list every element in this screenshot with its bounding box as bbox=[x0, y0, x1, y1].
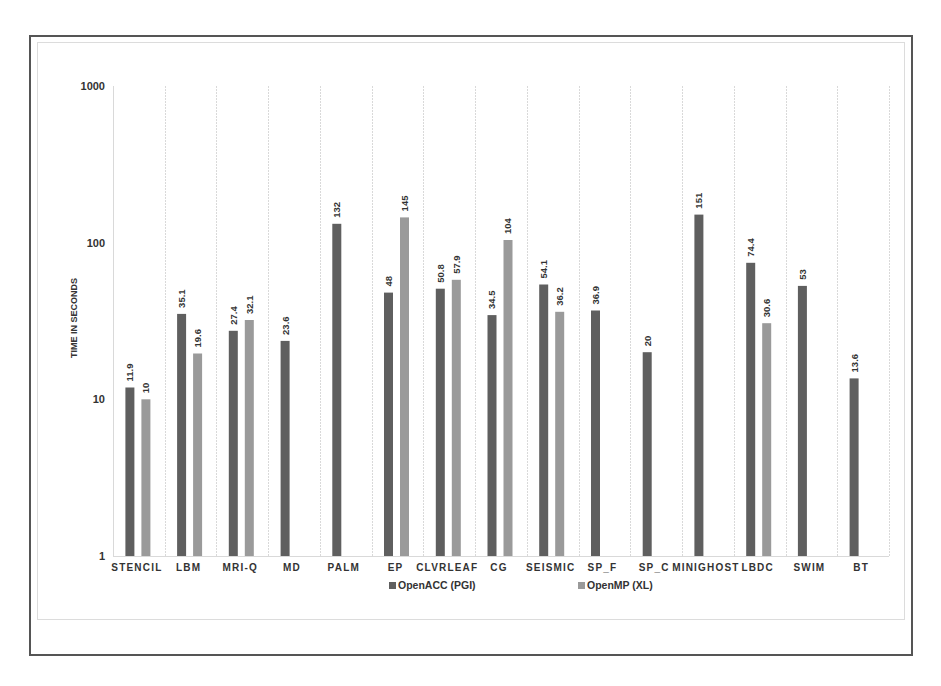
data-label: 36.2 bbox=[554, 287, 565, 306]
data-label: 32.1 bbox=[244, 295, 255, 314]
legend-label-openmp: OpenMP (XL) bbox=[587, 579, 653, 591]
data-label: 145 bbox=[399, 195, 410, 212]
data-label: 132 bbox=[331, 202, 342, 218]
x-category-label: LBDC bbox=[741, 562, 774, 573]
data-label: 34.5 bbox=[487, 290, 498, 309]
data-label: 27.4 bbox=[228, 306, 239, 325]
x-category-label: MD bbox=[283, 562, 301, 573]
y-tick-label: 100 bbox=[87, 237, 105, 249]
x-category-label: EP bbox=[388, 562, 404, 573]
legend-label-openacc: OpenACC (PGI) bbox=[398, 579, 476, 591]
bars bbox=[125, 215, 858, 556]
x-category-label: SP_C bbox=[639, 562, 670, 573]
data-label: 13.6 bbox=[849, 354, 860, 373]
bar-openmp bbox=[141, 399, 150, 556]
bar-openmp bbox=[762, 323, 771, 556]
data-label: 104 bbox=[503, 217, 514, 234]
x-category-label: BT bbox=[853, 562, 869, 573]
x-category-label: MINIGHOST bbox=[672, 562, 739, 573]
legend: OpenACC (PGI) OpenMP (XL) bbox=[389, 579, 653, 591]
bar-openacc bbox=[850, 378, 859, 556]
bar-openacc bbox=[488, 315, 497, 556]
data-label: 23.6 bbox=[280, 316, 291, 335]
data-label: 53 bbox=[797, 269, 808, 280]
bar-openacc bbox=[591, 311, 600, 557]
data-label: 10 bbox=[140, 383, 151, 394]
bar-openmp bbox=[245, 320, 254, 556]
bar-openacc bbox=[332, 224, 341, 556]
bar-openacc bbox=[125, 388, 134, 557]
x-category-label: CLVRLEAF bbox=[416, 562, 478, 573]
y-tick-label: 1 bbox=[99, 550, 105, 562]
data-label: 19.6 bbox=[192, 329, 203, 348]
x-category-label: PALM bbox=[328, 562, 360, 573]
legend-item-openacc: OpenACC (PGI) bbox=[389, 579, 476, 591]
bar-openacc bbox=[643, 352, 652, 556]
y-tick-label: 1000 bbox=[81, 80, 105, 92]
data-label: 20 bbox=[642, 336, 653, 347]
bar-openmp bbox=[400, 217, 409, 556]
y-axis-ticks: 1101001000 bbox=[81, 80, 105, 562]
bar-openmp bbox=[193, 354, 202, 557]
data-label: 57.9 bbox=[451, 255, 462, 274]
bar-openmp bbox=[555, 312, 564, 556]
data-label: 35.1 bbox=[176, 289, 187, 308]
bar-openacc bbox=[798, 286, 807, 556]
x-category-label: STENCIL bbox=[111, 562, 162, 573]
data-label: 48 bbox=[383, 276, 394, 287]
bar-openmp bbox=[504, 240, 513, 556]
bar-openacc bbox=[436, 289, 445, 556]
data-label: 30.6 bbox=[761, 299, 772, 318]
x-category-label: LBM bbox=[176, 562, 201, 573]
x-category-label: SP_F bbox=[588, 562, 618, 573]
bar-openacc bbox=[384, 293, 393, 556]
bar-openacc bbox=[281, 341, 290, 556]
bar-openacc bbox=[539, 285, 548, 557]
x-category-label: CG bbox=[490, 562, 507, 573]
data-label: 50.8 bbox=[435, 264, 446, 283]
legend-swatch-openmp bbox=[578, 582, 585, 589]
bar-openacc bbox=[229, 331, 238, 556]
x-category-label: SEISMIC bbox=[526, 562, 576, 573]
legend-swatch-openacc bbox=[389, 582, 396, 589]
data-label: 151 bbox=[693, 192, 704, 209]
data-label: 11.9 bbox=[124, 364, 135, 382]
bar-openacc bbox=[694, 215, 703, 556]
legend-item-openmp: OpenMP (XL) bbox=[578, 579, 653, 591]
y-axis-title: TIME IN SECONDS bbox=[69, 278, 79, 358]
x-category-label: MRI-Q bbox=[223, 562, 258, 573]
x-category-label: SWIM bbox=[793, 562, 825, 573]
x-axis-categories: STENCILLBMMRI-QMDPALMEPCLVRLEAFCGSEISMIC… bbox=[111, 562, 869, 573]
y-tick-label: 10 bbox=[93, 393, 105, 405]
bar-openmp bbox=[452, 280, 461, 556]
bar-chart: 1101001000 TIME IN SECONDS 11.935.127.42… bbox=[0, 0, 941, 686]
bar-openacc bbox=[177, 314, 186, 556]
data-label: 36.9 bbox=[590, 286, 601, 305]
data-label: 54.1 bbox=[538, 259, 549, 278]
data-label: 74.4 bbox=[745, 238, 756, 257]
bar-openacc bbox=[746, 263, 755, 556]
